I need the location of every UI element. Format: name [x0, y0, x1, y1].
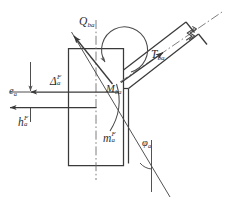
joint-moment-label: Mba	[106, 84, 121, 95]
beam-outline	[124, 22, 208, 164]
story-height-label: hFa	[18, 115, 28, 128]
figure-root: Qba Tba Mba ΔFa hFa ea mFa φa	[0, 0, 229, 202]
sway-displacement-label: ΔFa	[50, 74, 61, 87]
eccentricity-label: ea	[9, 86, 17, 97]
inclination-angle-label: φa	[142, 138, 151, 149]
sway-displacement-symbol: Δ	[50, 75, 57, 87]
joint-moment-symbol: M	[106, 83, 115, 94]
shear-force-subscript: ba	[87, 21, 94, 29]
fixed-end-moment-label: mFa	[103, 131, 116, 144]
joint-moment-arc	[102, 27, 148, 72]
fixed-end-moment-symbol: m	[103, 132, 111, 144]
axial-force-label: Tba	[151, 49, 165, 62]
story-height-indices: Fa	[24, 115, 28, 128]
sway-displacement-subscript: a	[57, 80, 61, 86]
axial-force-subscript: ba	[158, 54, 165, 62]
axial-force-symbol: T	[151, 48, 157, 60]
fixed-end-moment-indices: Fa	[112, 131, 116, 144]
story-height-subscript: a	[24, 121, 28, 127]
story-height-symbol: h	[18, 116, 24, 128]
inclination-angle-subscript: a	[148, 142, 151, 149]
joint-moment-subscript: ba	[115, 88, 122, 95]
sway-displacement-indices: Fa	[57, 74, 61, 87]
inclination-angle-symbol: φ	[142, 137, 148, 148]
diagram-canvas	[0, 0, 229, 202]
fixed-end-moment-subscript: a	[112, 137, 116, 143]
shear-force-label: Qba	[79, 16, 95, 29]
shear-force-arrow	[74, 36, 113, 84]
eccentricity-symbol: e	[9, 85, 14, 96]
eccentricity-subscript: a	[14, 90, 17, 97]
